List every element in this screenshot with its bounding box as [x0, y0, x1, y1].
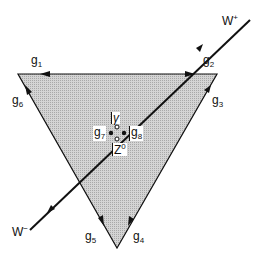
label-z0: Z0 [112, 143, 127, 156]
label-g2: g2 [203, 54, 214, 69]
label-gamma: γ [111, 112, 120, 124]
octet-triangle [18, 74, 217, 248]
g8-point [122, 131, 126, 135]
label-wplus: W+ [222, 14, 238, 27]
weight-diagram [0, 0, 254, 261]
label-g7: g7 [93, 126, 106, 141]
label-g3: g3 [212, 94, 223, 109]
arrow-wplus [196, 44, 203, 52]
label-g4: g4 [133, 230, 144, 245]
label-g5: g5 [85, 230, 96, 245]
z0-point [115, 137, 119, 141]
label-g8: g8 [129, 126, 143, 141]
label-g6: g6 [12, 94, 23, 109]
label-g1: g1 [31, 54, 42, 69]
gamma-point [115, 125, 119, 129]
label-wminus: W− [12, 225, 28, 238]
g7-point [109, 131, 113, 135]
